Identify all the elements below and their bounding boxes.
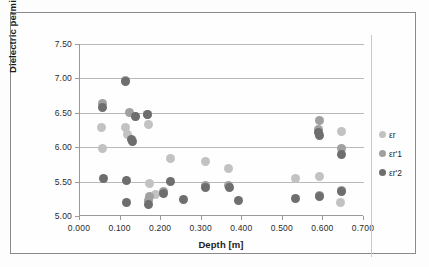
data-point — [97, 123, 106, 132]
data-point — [315, 116, 324, 125]
x-tick-mark — [363, 216, 364, 220]
legend-label: εr'1 — [389, 149, 402, 159]
data-point — [122, 198, 131, 207]
y-tick-label: 6.00 — [39, 142, 72, 152]
x-tick-mark — [322, 216, 323, 220]
data-point — [315, 192, 324, 201]
x-tick-label: 0.400 — [223, 223, 259, 233]
gridline-y — [80, 44, 364, 45]
x-tick-label: 0.000 — [61, 223, 97, 233]
x-tick-label: 0.700 — [345, 223, 381, 233]
legend-item[interactable]: εr — [379, 125, 425, 144]
x-tick-mark — [79, 216, 80, 220]
screenshot-root: Dielectric permittivity Depth [m] 5.005.… — [0, 0, 429, 267]
data-point — [225, 183, 234, 192]
y-tick-label: 6.50 — [39, 108, 72, 118]
data-point — [336, 198, 345, 207]
x-tick-label: 0.100 — [102, 223, 138, 233]
data-point — [201, 157, 210, 166]
data-point — [131, 112, 140, 121]
data-point — [224, 164, 233, 173]
legend-marker-icon — [379, 131, 386, 138]
x-tick-mark — [282, 216, 283, 220]
data-point — [98, 103, 107, 112]
y-tick-mark — [75, 147, 79, 148]
y-tick-mark — [75, 182, 79, 183]
y-tick-mark — [75, 44, 79, 45]
legend-label: εr — [389, 130, 396, 140]
data-point — [98, 144, 107, 153]
data-point — [314, 128, 323, 137]
x-axis-label: Depth [m] — [79, 239, 363, 250]
data-point — [121, 77, 130, 86]
legend-divider — [371, 35, 372, 257]
data-point — [166, 177, 175, 186]
figure-frame: Dielectric permittivity Depth [m] 5.005.… — [10, 12, 416, 254]
data-point — [122, 176, 131, 185]
data-point — [143, 110, 152, 119]
y-tick-mark — [75, 113, 79, 114]
x-tick-mark — [241, 216, 242, 220]
data-point — [315, 172, 324, 181]
data-point — [337, 127, 346, 136]
data-point — [337, 150, 346, 159]
x-tick-mark — [201, 216, 202, 220]
data-point — [291, 174, 300, 183]
data-point — [234, 196, 243, 205]
data-point — [159, 189, 168, 198]
legend-marker-icon — [379, 150, 386, 157]
y-tick-label: 5.50 — [39, 177, 72, 187]
y-tick-mark — [75, 78, 79, 79]
x-tick-label: 0.600 — [304, 223, 340, 233]
data-point — [201, 183, 210, 192]
data-point — [179, 195, 188, 204]
legend-marker-icon — [379, 169, 386, 176]
y-tick-label: 5.00 — [39, 211, 72, 221]
gridline-y — [80, 113, 364, 114]
data-point — [166, 154, 175, 163]
data-point — [291, 194, 300, 203]
plot-area — [79, 44, 363, 216]
legend-item[interactable]: εr'1 — [379, 144, 425, 163]
x-tick-mark — [120, 216, 121, 220]
chart-legend: εrεr'1εr'2 — [379, 125, 425, 182]
data-point — [337, 187, 346, 196]
data-point — [144, 120, 153, 129]
data-point — [128, 137, 137, 146]
data-point — [144, 200, 153, 209]
x-tick-label: 0.200 — [142, 223, 178, 233]
y-tick-label: 7.50 — [39, 39, 72, 49]
data-point — [99, 174, 108, 183]
x-tick-mark — [160, 216, 161, 220]
x-tick-label: 0.500 — [264, 223, 300, 233]
gridline-y — [80, 147, 364, 148]
y-tick-label: 7.00 — [39, 73, 72, 83]
legend-item[interactable]: εr'2 — [379, 163, 425, 182]
data-point — [145, 179, 154, 188]
y-axis-label: Dielectric permittivity — [7, 0, 18, 73]
x-tick-label: 0.300 — [183, 223, 219, 233]
legend-label: εr'2 — [389, 168, 402, 178]
